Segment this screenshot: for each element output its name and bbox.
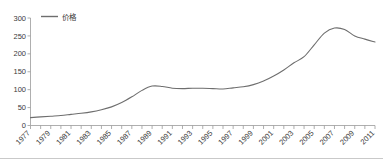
line-chart: 050100150200250300 197719791981198319851… xyxy=(0,0,383,163)
x-tick-label: 1999 xyxy=(237,129,255,147)
y-axis-tick-labels: 050100150200250300 xyxy=(13,14,26,131)
x-tick-label: 1985 xyxy=(95,129,113,147)
legend-label-price: 价格 xyxy=(62,12,77,22)
y-tick-label: 200 xyxy=(13,49,26,58)
x-tick-label: 2001 xyxy=(257,129,275,147)
y-tick-label: 300 xyxy=(13,14,26,23)
chart-canvas: 050100150200250300 197719791981198319851… xyxy=(0,0,383,163)
x-tick-label: 1981 xyxy=(54,129,72,147)
series-group xyxy=(31,28,376,118)
x-axis-tick-marks xyxy=(31,126,376,130)
y-tick-label: 250 xyxy=(13,32,26,41)
x-tick-label: 1995 xyxy=(196,129,214,147)
x-tick-label: 2005 xyxy=(297,129,315,147)
x-axis-tick-labels: 1977197919811983198519871989199119931995… xyxy=(14,129,377,147)
y-tick-label: 150 xyxy=(13,67,26,76)
x-tick-label: 2007 xyxy=(318,129,336,147)
chart-legend: 价格 xyxy=(41,12,77,22)
y-axis-tick-marks xyxy=(28,18,31,126)
y-tick-label: 50 xyxy=(18,103,26,112)
x-tick-label: 2011 xyxy=(359,129,377,147)
x-tick-label: 2003 xyxy=(277,129,295,147)
x-tick-label: 1989 xyxy=(135,129,153,147)
x-tick-label: 1983 xyxy=(75,129,93,147)
x-tick-label: 1977 xyxy=(14,129,32,147)
x-tick-label: 1993 xyxy=(176,129,194,147)
x-tick-label: 1997 xyxy=(216,129,234,147)
series-line-1 xyxy=(31,28,376,118)
x-tick-label: 1991 xyxy=(156,129,174,147)
x-tick-label: 2009 xyxy=(338,129,356,147)
y-tick-label: 100 xyxy=(13,85,26,94)
x-tick-label: 1987 xyxy=(115,129,133,147)
x-tick-label: 1979 xyxy=(34,129,52,147)
